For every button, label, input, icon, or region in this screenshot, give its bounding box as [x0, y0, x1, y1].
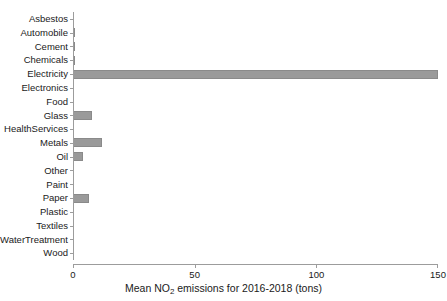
x-axis-tick	[316, 264, 317, 268]
category-label: Glass	[44, 111, 68, 121]
x-axis-tick	[73, 264, 74, 268]
bar	[73, 70, 438, 79]
x-axis-title: Mean NO2 emissions for 2016-2018 (tons)	[0, 283, 447, 294]
bar-row: HealthServices	[73, 122, 438, 136]
bar	[73, 138, 102, 147]
y-axis-tick	[70, 253, 73, 254]
bar-row: Wood	[73, 246, 438, 260]
bar-row: Glass	[73, 108, 438, 122]
bar-row: Oil	[73, 150, 438, 164]
x-axis-tick	[437, 264, 438, 268]
category-label: Automobile	[20, 28, 68, 38]
y-axis-tick	[70, 129, 73, 130]
x-axis-line: 050100150	[73, 264, 438, 265]
category-label: Other	[44, 166, 68, 176]
category-label: Plastic	[40, 207, 68, 217]
y-axis-tick	[70, 170, 73, 171]
category-label: Textiles	[36, 221, 68, 231]
bar-row: Paint	[73, 177, 438, 191]
y-axis-tick	[70, 157, 73, 158]
category-label: Paint	[46, 180, 68, 190]
category-label: Cement	[35, 42, 68, 52]
bar-row: Electronics	[73, 81, 438, 95]
category-label: Oil	[56, 152, 68, 162]
x-axis-title-before: Mean NO	[125, 282, 170, 294]
y-axis-tick	[70, 184, 73, 185]
y-axis-tick	[70, 33, 73, 34]
bar-chart: AsbestosAutomobileCementChemicalsElectri…	[0, 0, 447, 301]
y-axis-tick	[70, 19, 73, 20]
y-axis-line	[73, 12, 74, 260]
y-axis-tick	[70, 102, 73, 103]
x-axis-tick-label: 100	[308, 270, 324, 280]
category-label: Electronics	[22, 83, 68, 93]
bar-row: Asbestos	[73, 12, 438, 26]
category-label: HealthServices	[4, 124, 68, 134]
category-label: Metals	[40, 138, 68, 148]
y-axis-tick	[70, 143, 73, 144]
x-axis-tick-label: 150	[430, 270, 446, 280]
category-label: Paper	[43, 193, 68, 203]
category-label: Electricity	[27, 69, 68, 79]
bar-row: Metals	[73, 136, 438, 150]
bar-row: Chemicals	[73, 53, 438, 67]
category-label: WaterTreatment	[0, 235, 68, 245]
bar-row: Cement	[73, 40, 438, 54]
x-axis-title-after: emissions for 2016-2018 (tons)	[174, 282, 322, 294]
x-axis-tick-label: 50	[189, 270, 200, 280]
bar-row: Other	[73, 164, 438, 178]
bar	[73, 194, 89, 203]
category-label: Chemicals	[24, 55, 68, 65]
y-axis-tick	[70, 88, 73, 89]
category-label: Asbestos	[29, 14, 68, 24]
plot-area: AsbestosAutomobileCementChemicalsElectri…	[73, 12, 438, 260]
y-axis-tick	[70, 198, 73, 199]
bar-row: Textiles	[73, 219, 438, 233]
y-axis-tick	[70, 239, 73, 240]
y-axis-tick	[70, 212, 73, 213]
category-label: Wood	[43, 248, 68, 258]
bar	[73, 111, 92, 120]
bar	[73, 152, 83, 161]
y-axis-tick	[70, 226, 73, 227]
y-axis-tick	[70, 115, 73, 116]
x-axis-tick-label: 0	[70, 270, 75, 280]
bar-row: Food	[73, 95, 438, 109]
y-axis-tick	[70, 60, 73, 61]
bar-row: Plastic	[73, 205, 438, 219]
bar-row: WaterTreatment	[73, 233, 438, 247]
bar-row: Electricity	[73, 67, 438, 81]
x-axis-title-subscript: 2	[170, 287, 174, 296]
bar-row: Paper	[73, 191, 438, 205]
x-axis-tick	[195, 264, 196, 268]
y-axis-tick	[70, 46, 73, 47]
bar-row: Automobile	[73, 26, 438, 40]
category-label: Food	[46, 97, 68, 107]
bar-rows: AsbestosAutomobileCementChemicalsElectri…	[73, 12, 438, 260]
y-axis-tick	[70, 74, 73, 75]
